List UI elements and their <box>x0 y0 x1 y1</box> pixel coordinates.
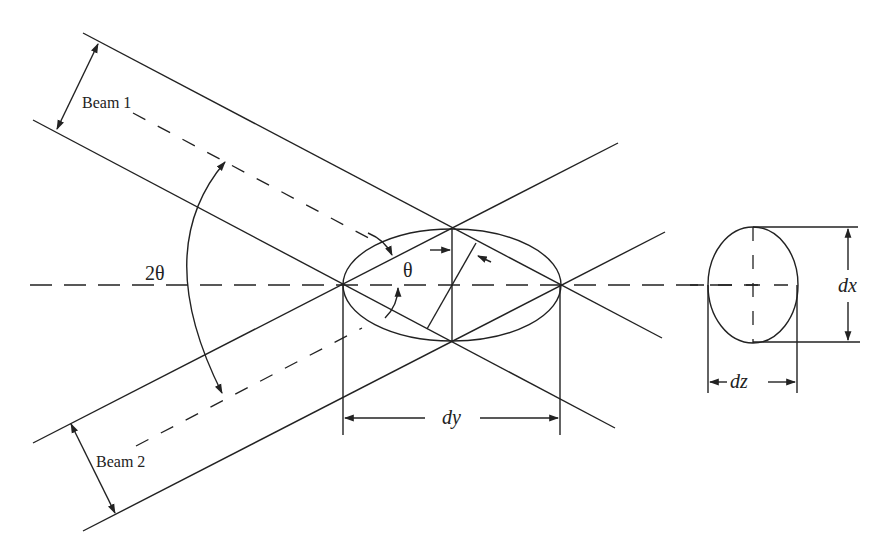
two-theta-label: 2θ <box>145 262 165 284</box>
theta-label: θ <box>403 259 413 281</box>
beam1-lower-edge <box>33 120 615 428</box>
beam2-upper-edge <box>33 143 618 443</box>
beam1-centerline <box>133 113 378 243</box>
two-theta-arc <box>187 162 225 393</box>
theta-arrow-lower <box>385 288 398 318</box>
fringe-arrow-right <box>478 256 491 262</box>
beam2-centerline <box>136 328 362 446</box>
dz-label: dz <box>730 370 748 392</box>
dy-label: dy <box>442 406 461 429</box>
beam2-label: Beam 2 <box>96 453 145 470</box>
theta-arrow-upper <box>368 233 392 255</box>
beam1-upper-edge <box>83 33 662 338</box>
beam-crossing-diagram: Beam 1 Beam 2 2θ θ dy dx dz <box>0 0 888 556</box>
beam2-lower-edge <box>83 232 665 531</box>
beam1-label: Beam 1 <box>82 94 131 111</box>
beam1-width-arrow <box>57 44 98 129</box>
dx-label: dx <box>838 274 857 296</box>
